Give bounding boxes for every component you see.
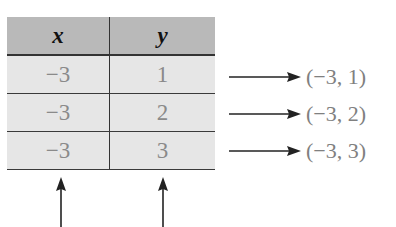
right-arrow-icon [229,70,301,84]
table-header: x y [7,17,215,56]
ordered-pair: (−3, 2) [306,102,366,126]
cell-y: 1 [110,56,215,93]
ordered-pair: (−3, 3) [306,139,366,163]
right-arrow-icon [229,144,301,158]
table-row: −3 1 [7,56,215,94]
up-arrow-icon [156,177,170,227]
cell-y: 3 [110,132,215,169]
right-arrow-icon [229,107,301,121]
xy-table: x y −3 1 −3 2 −3 3 [7,17,215,170]
cell-y: 2 [110,94,215,131]
cell-x: −3 [7,94,110,131]
header-y: y [110,17,215,54]
table-row: −3 3 [7,132,215,170]
table-row: −3 2 [7,94,215,132]
up-arrow-icon [54,177,68,227]
cell-x: −3 [7,56,110,93]
ordered-pair: (−3, 1) [306,65,366,89]
cell-x: −3 [7,132,110,169]
header-x: x [7,17,110,54]
